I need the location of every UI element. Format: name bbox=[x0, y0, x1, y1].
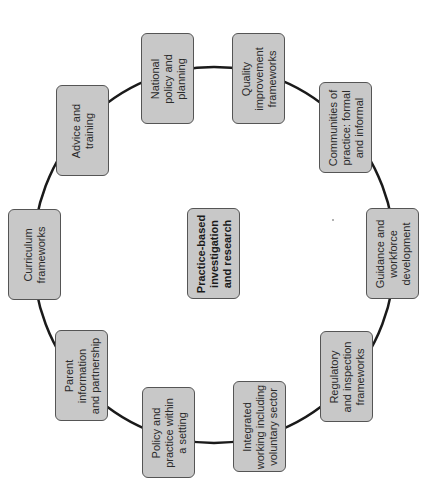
node-label: Advice and training bbox=[70, 87, 96, 175]
node-advice-training: Advice and training bbox=[56, 85, 109, 176]
node-integrated-working: Integrated working including voluntary s… bbox=[233, 381, 286, 472]
node-regulatory-inspection: Regulatory and inspection frameworks bbox=[320, 331, 373, 422]
node-label: Guidance and workforce development bbox=[373, 210, 412, 298]
stray-mark bbox=[332, 219, 334, 221]
node-guidance-workforce: Guidance and workforce development bbox=[366, 208, 419, 299]
node-label: Regulatory and inspection frameworks bbox=[327, 333, 366, 421]
node-label: Curriculum frameworks bbox=[22, 211, 48, 299]
node-label: Policy and practice within a setting bbox=[149, 389, 188, 477]
node-quality-improvement: Quality improvement frameworks bbox=[232, 33, 285, 124]
node-parent-partnership: Parent information and partnership bbox=[55, 330, 108, 421]
node-label: Quality improvement frameworks bbox=[239, 35, 278, 123]
center-node-practice-research: Practice-based investigation and researc… bbox=[187, 208, 240, 299]
node-communities-of-practice: Communities of practice: formal and info… bbox=[319, 82, 372, 173]
node-label: Parent information and partnership bbox=[62, 332, 101, 420]
node-label: National policy and planning bbox=[148, 35, 187, 123]
node-label: Communities of practice: formal and info… bbox=[326, 84, 365, 172]
node-policy-practice-setting: Policy and practice within a setting bbox=[142, 387, 195, 478]
node-label: Integrated working including voluntary s… bbox=[240, 383, 279, 471]
node-curriculum-frameworks: Curriculum frameworks bbox=[8, 209, 61, 300]
node-national-policy: National policy and planning bbox=[141, 33, 194, 124]
center-label: Practice-based investigation and researc… bbox=[194, 210, 233, 298]
